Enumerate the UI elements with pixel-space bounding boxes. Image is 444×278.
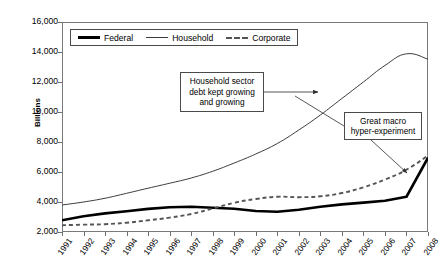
x-axis-tick-mark [385,232,386,236]
legend-item-label: Federal [104,33,133,43]
series-line-federal [62,158,428,221]
x-axis-tick-mark [191,232,192,236]
annotation-great-macro-text: Great macrohyper-experiment [351,116,416,137]
x-axis-tick-mark [234,232,235,236]
x-axis-tick-mark [127,232,128,236]
x-axis-tick-mark [299,232,300,236]
series-line-corporate [62,156,428,226]
chart-legend: FederalHouseholdCorporate [70,29,298,46]
annotation-household-growth-text: Household sectordebt kept growingand gro… [189,76,255,108]
annotation-household-growth: Household sectordebt kept growingand gro… [180,72,264,112]
chart-figure: Billions 16,00014,00012,00010,0008,0006,… [0,0,444,278]
x-axis-tick-mark [213,232,214,236]
annotation-great-macro: Great macrohyper-experiment [344,112,422,140]
x-axis-tick-mark [256,232,257,236]
thin-solid-line-swatch [146,34,168,42]
legend-item-household[interactable]: Household [146,33,213,43]
x-axis-tick-mark [320,232,321,236]
x-axis-tick-mark [363,232,364,236]
x-axis-tick-mark [428,232,429,236]
x-axis-tick-mark [84,232,85,236]
x-axis-tick-mark [342,232,343,236]
x-axis-tick-mark [406,232,407,236]
dashed-line-swatch [226,34,248,42]
legend-item-label: Corporate [252,33,290,43]
legend-item-federal[interactable]: Federal [78,33,133,43]
x-axis-tick-mark [62,232,63,236]
legend-item-label: Household [172,33,213,43]
legend-item-corporate[interactable]: Corporate [226,33,290,43]
x-axis-tick-mark [170,232,171,236]
x-axis-tick-mark [277,232,278,236]
x-axis-tick-mark [148,232,149,236]
x-axis-tick-mark [105,232,106,236]
thick-solid-line-swatch [78,34,100,42]
